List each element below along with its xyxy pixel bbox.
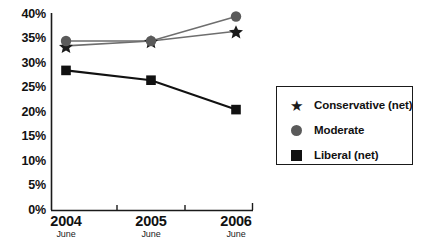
marker-moderate-2006 [231,11,241,21]
marker-moderate-2005 [146,36,156,46]
legend-label-liberal: Liberal (net) [314,149,379,161]
x-axis-year-2006: 2006 [193,214,279,229]
x-axis-sublabel-2004: June [23,229,109,239]
marker-liberal-2006 [231,105,241,115]
x-axis-year-2004: 2004 [23,214,109,229]
marker-moderate-2004 [61,36,71,46]
marker-conservative-2006 [229,25,243,38]
x-axis-category-2005: 2005 June [108,214,194,239]
x-axis-sublabel-2006: June [193,229,279,239]
circle-icon [287,121,305,139]
legend-item-moderate: Moderate [287,121,364,139]
marker-liberal-2004 [61,66,71,76]
x-axis-category-2004: 2004 June [23,214,109,239]
chart-legend: ★ Conservative (net) Moderate Liberal (n… [276,86,413,165]
square-icon [287,146,305,164]
x-axis-category-2006: 2006 June [193,214,279,239]
legend-item-conservative: ★ Conservative (net) [287,96,413,114]
x-axis-year-2005: 2005 [108,214,194,229]
marker-liberal-2005 [146,75,156,85]
x-axis-sublabel-2005: June [108,229,194,239]
legend-label-conservative: Conservative (net) [314,99,413,111]
line-chart: 40% 35% 30% 25% 20% 15% 10% 5% 0% [0,0,423,245]
legend-label-moderate: Moderate [314,124,364,136]
star-icon: ★ [287,96,305,114]
legend-item-liberal: Liberal (net) [287,146,379,164]
